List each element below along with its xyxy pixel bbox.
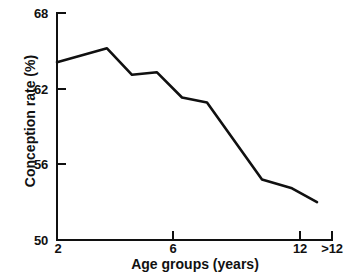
axis-lines — [57, 13, 332, 240]
data-line-conception-rate — [57, 48, 317, 202]
x-tick-label-6: 6 — [164, 241, 182, 256]
x-axis-title: Age groups (years) — [57, 256, 333, 272]
line-chart-plot — [0, 0, 347, 279]
x-tick-label-2: 2 — [49, 241, 67, 256]
y-tick-label-50: 50 — [14, 233, 48, 248]
y-axis-title: Conception rate (%) — [22, 31, 38, 211]
chart-figure: 68 62 56 50 2 6 12 >12 Conception rate (… — [0, 0, 347, 279]
x-tick-label-12: 12 — [288, 241, 312, 256]
x-axis-ticks — [57, 232, 332, 240]
x-tick-label-gt12: >12 — [316, 241, 347, 256]
axis-spines — [57, 13, 332, 240]
y-tick-label-68: 68 — [14, 6, 48, 21]
y-axis-ticks — [57, 13, 65, 240]
